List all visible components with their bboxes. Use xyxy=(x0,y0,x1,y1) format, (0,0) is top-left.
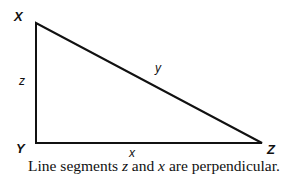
side-label-y: y xyxy=(154,61,162,75)
caption-mid: and xyxy=(128,157,158,174)
caption: Line segments z and x are perpendicular. xyxy=(0,157,308,175)
side-label-z: z xyxy=(18,74,25,88)
caption-prefix: Line segments xyxy=(28,157,122,174)
caption-var-x: x xyxy=(158,157,165,174)
vertex-label-z: Z xyxy=(266,142,276,157)
vertex-label-x: X xyxy=(13,9,24,24)
triangle-xyz xyxy=(36,23,262,143)
triangle-diagram: X Y Z z y x xyxy=(0,0,308,183)
vertex-label-y: Y xyxy=(16,141,26,156)
caption-suffix: are perpendicular. xyxy=(165,157,280,174)
